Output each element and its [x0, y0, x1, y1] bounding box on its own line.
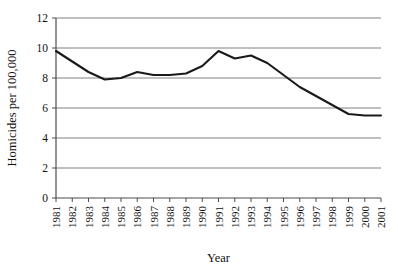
x-tick-label: 2000: [359, 206, 371, 229]
x-tick-label: 1997: [310, 206, 322, 229]
y-tick-label: 4: [42, 132, 48, 144]
x-tick-label: 1988: [164, 206, 176, 229]
x-tick-label: 1993: [245, 206, 257, 229]
x-tick-label: 1981: [50, 206, 62, 228]
x-tick-label: 1998: [326, 206, 338, 229]
x-tick-label: 1983: [83, 206, 95, 229]
x-tick-label: 1987: [148, 206, 160, 229]
y-tick-label: 0: [42, 192, 48, 204]
y-tick-label: 8: [42, 72, 48, 84]
x-tick-label: 1989: [180, 206, 192, 229]
x-tick-label: 1990: [196, 206, 208, 229]
y-axis-title: Homicides per 100,000: [5, 50, 19, 167]
x-tick-label: 1985: [115, 206, 127, 229]
x-tick-label: 1982: [66, 206, 78, 228]
x-tick-label: 1984: [99, 206, 111, 229]
x-tick-labels-group: 1981198219831984198519861987198819891990…: [50, 206, 387, 229]
x-tick-label: 1994: [261, 206, 273, 229]
x-tick-label: 1991: [213, 206, 225, 228]
x-axis-title: Year: [207, 251, 231, 265]
y-tick-label: 6: [42, 102, 48, 114]
x-tick-label: 1996: [294, 206, 306, 229]
homicide-rate-line-chart: 024681012 198119821983198419851986198719…: [0, 0, 398, 270]
x-tick-label: 1995: [278, 206, 290, 229]
y-tick-label: 2: [42, 162, 48, 174]
chart-canvas: 024681012 198119821983198419851986198719…: [0, 0, 398, 270]
x-tick-label: 1999: [343, 206, 355, 229]
gridlines-group: [56, 18, 381, 168]
homicide-series-line: [56, 51, 381, 116]
y-tick-label: 12: [37, 12, 49, 24]
x-tick-label: 1986: [131, 206, 143, 229]
y-tick-labels-group: 024681012: [37, 12, 49, 204]
x-tick-marks-group: [56, 198, 381, 202]
y-tick-label: 10: [37, 42, 49, 54]
x-tick-label: 1992: [229, 206, 241, 228]
x-tick-label: 2001: [375, 206, 387, 228]
